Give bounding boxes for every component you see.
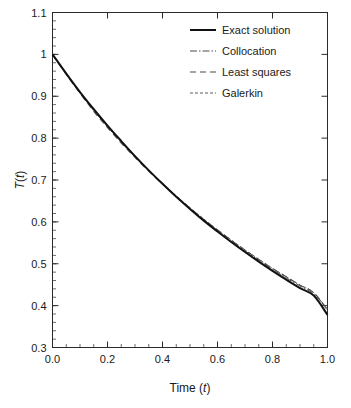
y-tick-label: 1 — [40, 48, 46, 60]
y-tick-label: 0.5 — [31, 258, 46, 270]
y-tick-label: 0.8 — [31, 132, 46, 144]
plot-canvas: 0.00.20.40.60.81.0 0.30.40.50.60.70.80.9… — [0, 0, 351, 408]
y-tick-label: 0.7 — [31, 174, 46, 186]
legend-label-least-squares[interactable]: Least squares — [222, 66, 292, 78]
x-tick-label: 0.4 — [155, 353, 170, 365]
y-tick-label: 0.3 — [31, 342, 46, 354]
y-tick-label: 0.9 — [31, 90, 46, 102]
x-tick-label: 1.0 — [320, 353, 335, 365]
legend-label-collocation[interactable]: Collocation — [222, 45, 276, 57]
x-axis-title: Time (t) — [170, 381, 211, 395]
y-tick-label: 1.1 — [31, 7, 46, 19]
x-tick-label: 0.2 — [100, 353, 115, 365]
y-axis-title: T(t) — [13, 171, 27, 190]
y-axis-minor-ticks — [53, 13, 57, 348]
legend-label-exact-solution[interactable]: Exact solution — [222, 24, 290, 36]
x-tick-label: 0.8 — [265, 353, 280, 365]
legend-label-galerkin[interactable]: Galerkin — [222, 87, 263, 99]
x-tick-label: 0.0 — [45, 353, 60, 365]
x-tick-label: 0.6 — [210, 353, 225, 365]
chart-figure: 0.00.20.40.60.81.0 0.30.40.50.60.70.80.9… — [0, 0, 351, 408]
y-tick-label: 0.6 — [31, 216, 46, 228]
x-axis-minor-ticks — [53, 344, 328, 348]
y-tick-label: 0.4 — [31, 300, 46, 312]
